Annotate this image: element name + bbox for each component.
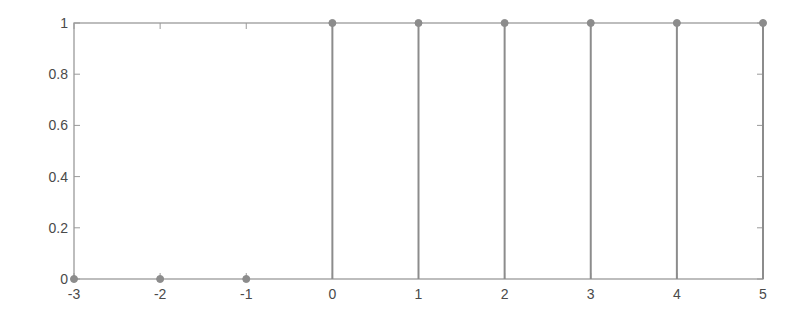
stem-marker (673, 20, 680, 27)
x-tick-label: -1 (240, 286, 253, 302)
y-tick-label: 0.4 (49, 169, 69, 185)
x-tick-label: 1 (415, 286, 423, 302)
y-tick-label: 0.6 (49, 117, 69, 133)
x-tick-label: -2 (154, 286, 167, 302)
stem-series (71, 20, 767, 283)
stem-marker (157, 276, 164, 283)
x-tick-label: 5 (759, 286, 767, 302)
stem-marker (329, 20, 336, 27)
stem-marker (71, 276, 78, 283)
y-tick-label: 0.2 (49, 220, 69, 236)
stem-marker (501, 20, 508, 27)
x-tick-label: 4 (673, 286, 681, 302)
y-tick-label: 0.8 (49, 66, 69, 82)
stem-marker (415, 20, 422, 27)
stem-marker (243, 276, 250, 283)
y-tick-label: 1 (60, 15, 68, 31)
x-tick-label: 3 (587, 286, 595, 302)
x-axis-ticks: -3-2-1012345 (68, 23, 767, 302)
x-tick-label: 2 (501, 286, 509, 302)
stem-marker (587, 20, 594, 27)
y-tick-label: 0 (60, 271, 68, 287)
stem-plot: 00.20.40.60.81 -3-2-1012345 (0, 0, 802, 325)
stem-marker (760, 20, 767, 27)
y-axis-ticks: 00.20.40.60.81 (49, 15, 763, 287)
x-tick-label: 0 (328, 286, 336, 302)
x-tick-label: -3 (68, 286, 81, 302)
